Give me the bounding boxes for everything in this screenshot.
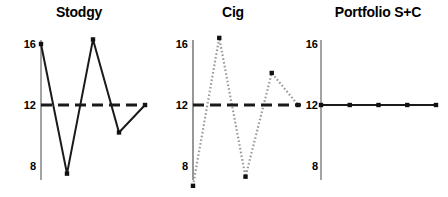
three-panel-line-chart-figure: Stodgy 16 12 8 Cig 16 12 8 Portfolio S+C… (0, 0, 448, 197)
data-point-marker (65, 171, 69, 175)
data-point-marker (348, 103, 352, 107)
data-point-marker (191, 184, 195, 188)
data-point-marker (376, 103, 380, 107)
data-point-marker (434, 103, 438, 107)
data-point-marker (39, 42, 43, 46)
chart-panel-portfolio: Portfolio S+C 16 12 8 (308, 0, 448, 197)
data-point-marker (270, 71, 274, 75)
data-point-marker (91, 37, 95, 41)
data-point-marker (319, 103, 323, 107)
data-point-marker (405, 103, 409, 107)
data-point-marker (117, 130, 121, 134)
data-point-marker (217, 36, 221, 40)
chart-panel-cig: Cig 16 12 8 (158, 0, 308, 197)
chart-panel-stodgy: Stodgy 16 12 8 (0, 0, 158, 197)
plot-area-stodgy (0, 0, 158, 197)
series-cig (191, 36, 300, 188)
plot-area-portfolio (308, 0, 448, 197)
data-point-marker (243, 174, 247, 178)
plot-area-cig (158, 0, 308, 197)
series-polyline (193, 38, 298, 186)
series-portfolio (319, 103, 438, 107)
